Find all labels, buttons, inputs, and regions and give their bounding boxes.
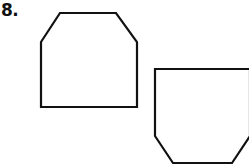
upright-hexagon-figure [41,13,137,107]
inverted-hexagon-figure [155,69,249,163]
figures-canvas [0,0,249,168]
